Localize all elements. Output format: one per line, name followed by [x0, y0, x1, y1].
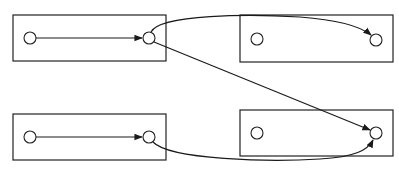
boxes-layer [13, 15, 393, 160]
node-bl-in [24, 131, 36, 143]
node-bl-out [143, 131, 155, 143]
diagram-canvas [0, 0, 399, 175]
edge-bl-out-to-br-b [153, 140, 373, 160]
node-tr-a [251, 33, 263, 45]
edge-tl-out-to-br-b [154, 42, 370, 130]
node-tl-in [24, 32, 36, 44]
edge-tl-out-to-tr-b [151, 16, 371, 35]
nodes-layer [24, 32, 382, 143]
node-tr-b [370, 34, 382, 46]
node-br-a [251, 127, 263, 139]
edges-layer [36, 16, 373, 161]
node-br-b [370, 127, 382, 139]
node-tl-out [143, 32, 155, 44]
